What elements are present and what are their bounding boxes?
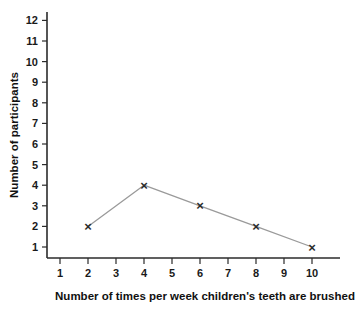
chart-background	[0, 0, 357, 309]
data-point-marker: ×	[84, 219, 92, 234]
y-axis-title: Number of participants	[8, 72, 20, 198]
x-tick-label: 4	[141, 267, 148, 279]
y-tick-label: 9	[32, 76, 38, 88]
y-tick-label: 10	[26, 56, 38, 68]
x-tick-label: 3	[113, 267, 119, 279]
data-point-marker: ×	[252, 219, 260, 234]
chart-canvas: 123456789101112 12345678910 ××××× Number…	[0, 0, 357, 309]
x-axis-title: Number of times per week children's teet…	[55, 290, 355, 302]
x-tick-label: 2	[85, 267, 91, 279]
y-tick-label: 1	[32, 241, 38, 253]
y-tick-label: 5	[32, 159, 38, 171]
y-tick-label: 12	[26, 14, 38, 26]
x-tick-label: 7	[225, 267, 231, 279]
line-chart: 123456789101112 12345678910 ××××× Number…	[0, 0, 357, 309]
y-tick-label: 7	[32, 117, 38, 129]
y-tick-label: 8	[32, 97, 38, 109]
x-tick-label: 10	[306, 267, 318, 279]
y-tick-label: 6	[32, 138, 38, 150]
x-tick-label: 9	[281, 267, 287, 279]
x-tick-label: 5	[169, 267, 175, 279]
x-tick-label: 1	[57, 267, 63, 279]
y-tick-label: 4	[32, 179, 39, 191]
data-point-marker: ×	[308, 240, 316, 255]
y-tick-label: 3	[32, 200, 38, 212]
x-tick-label: 8	[253, 267, 259, 279]
y-tick-label: 11	[26, 35, 38, 47]
data-point-marker: ×	[140, 178, 148, 193]
x-tick-label: 6	[197, 267, 203, 279]
y-tick-label: 2	[32, 220, 38, 232]
data-point-marker: ×	[196, 198, 204, 213]
